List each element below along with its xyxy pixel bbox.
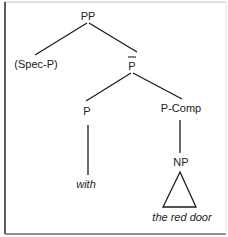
node-np: NP xyxy=(173,156,188,168)
edge-pbar-p xyxy=(86,73,131,101)
np-triangle-icon xyxy=(163,172,196,207)
syntax-tree-diagram: PP (Spec-P) P P P-Comp NP with the red d… xyxy=(0,0,228,237)
node-p-comp: P-Comp xyxy=(161,102,201,114)
edge-pp-pbar xyxy=(89,23,137,52)
node-pp: PP xyxy=(81,10,96,22)
leaf-the-red-door: the red door xyxy=(152,211,213,223)
leaf-with: with xyxy=(76,178,96,190)
edge-pp-spec xyxy=(35,23,87,55)
tree-svg: PP (Spec-P) P P P-Comp NP with the red d… xyxy=(0,0,228,237)
edge-pbar-pcomp xyxy=(133,73,182,99)
node-spec-p: (Spec-P) xyxy=(14,58,57,70)
node-p-head: P xyxy=(83,105,90,117)
node-p-bar: P xyxy=(128,60,135,72)
